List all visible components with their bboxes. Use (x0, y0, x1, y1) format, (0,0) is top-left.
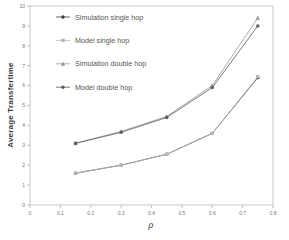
series-marker-3 (165, 116, 168, 119)
legend-label: Model single hop (75, 36, 129, 45)
x-axis-tick-label: 0.1 (57, 210, 64, 216)
transfer-time-chart: Average Transfertime ρ 01234567891000.10… (0, 0, 289, 240)
legend-label: Simulation single hop (75, 13, 143, 22)
series-marker-3 (256, 24, 259, 27)
x-axis-tick-label: 0.2 (87, 210, 94, 216)
y-axis-tick-label: 3 (22, 142, 25, 148)
series-marker-1 (74, 171, 77, 174)
y-axis-tick-label: 8 (22, 43, 25, 49)
legend-square-icon (61, 39, 64, 42)
x-axis-tick-label: 0.3 (118, 210, 125, 216)
series-marker-3 (119, 131, 122, 134)
y-axis-tick-label: 0 (22, 202, 25, 208)
legend-label: Model double hop (75, 83, 132, 92)
legend-circle-icon (61, 15, 64, 18)
y-axis-tick-label: 2 (22, 162, 25, 168)
x-axis-tick-label: 0 (29, 210, 32, 216)
y-axis-tick-label: 5 (22, 102, 25, 108)
series-marker-2 (256, 16, 260, 20)
legend-label: Simulation double hop (75, 59, 146, 68)
series-marker-1 (256, 75, 259, 78)
x-axis-tick-label: 0.4 (148, 210, 155, 216)
y-axis-tick-label: 6 (22, 82, 25, 88)
y-axis-tick-label: 7 (22, 63, 25, 69)
y-axis-tick-label: 4 (22, 122, 25, 128)
series-marker-3 (74, 142, 77, 145)
legend-circle-icon (61, 86, 64, 89)
series-marker-3 (211, 86, 214, 89)
y-axis-tick-label: 10 (19, 3, 25, 9)
plot-frame (30, 6, 273, 205)
x-axis-tick-label: 0.7 (239, 210, 246, 216)
series-marker-1 (165, 153, 168, 156)
series-line-0 (76, 78, 258, 174)
y-axis-tick-label: 1 (22, 182, 25, 188)
y-axis-tick-label: 9 (22, 23, 25, 29)
series-marker-1 (119, 164, 122, 167)
x-axis-tick-label: 0.5 (178, 210, 185, 216)
x-axis-tick-label: 0.8 (270, 210, 277, 216)
plot-area: 01234567891000.10.20.30.40.50.60.70.8Sim… (0, 0, 289, 240)
x-axis-tick-label: 0.6 (209, 210, 216, 216)
series-marker-1 (211, 132, 214, 135)
